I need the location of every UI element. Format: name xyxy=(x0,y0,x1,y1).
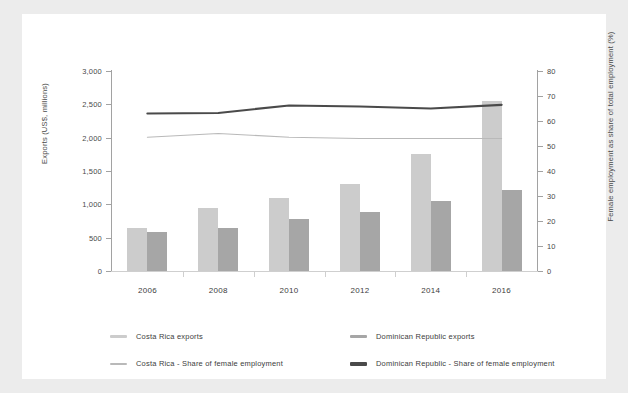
right-axis-tick xyxy=(538,96,543,97)
legend-item[interactable]: Dominican Republic - Share of female emp… xyxy=(350,359,590,368)
right-axis-tick-label: 60 xyxy=(547,117,556,126)
left-axis-tick-label: 1,000 xyxy=(62,200,102,209)
y-axis-title-right: Female employment as share of total empl… xyxy=(606,19,615,234)
right-axis-tick-label: 10 xyxy=(547,242,556,251)
legend-label: Dominican Republic - Share of female emp… xyxy=(376,359,555,368)
x-axis-label: 2006 xyxy=(112,286,183,295)
x-axis-label: 2010 xyxy=(254,286,325,295)
left-axis-tick-label: 2,000 xyxy=(62,134,102,143)
line-costa-rica-female-employment xyxy=(147,134,501,139)
legend-label: Costa Rica exports xyxy=(136,332,203,341)
legend-swatch-icon xyxy=(110,335,127,338)
left-axis-tick-label: 3,000 xyxy=(62,67,102,76)
left-axis-tick xyxy=(106,171,111,172)
left-axis-tick xyxy=(106,138,111,139)
right-axis-tick xyxy=(538,271,543,272)
right-axis-tick-label: 80 xyxy=(547,67,556,76)
page-background: Exports (US$, millions) Female employmen… xyxy=(0,0,628,393)
right-axis-tick-label: 40 xyxy=(547,167,556,176)
x-axis-label: 2016 xyxy=(466,286,537,295)
right-axis-tick-label: 20 xyxy=(547,217,556,226)
x-axis-tick xyxy=(395,272,396,277)
x-axis-tick xyxy=(183,272,184,277)
x-axis-label: 2008 xyxy=(183,286,254,295)
x-axis-tick xyxy=(325,272,326,277)
right-axis-tick-label: 70 xyxy=(547,92,556,101)
left-axis-tick xyxy=(106,271,111,272)
line-dominican-republic-female-employment xyxy=(147,105,501,114)
right-axis-tick xyxy=(538,171,543,172)
right-axis-tick-label: 30 xyxy=(547,192,556,201)
right-axis-tick xyxy=(538,221,543,222)
legend-item[interactable]: Costa Rica exports xyxy=(110,332,350,341)
left-axis-tick xyxy=(106,104,111,105)
x-axis-tick xyxy=(466,272,467,277)
right-axis-tick xyxy=(538,146,543,147)
x-axis-tick xyxy=(254,272,255,277)
x-axis-label: 2014 xyxy=(395,286,466,295)
right-axis-tick xyxy=(538,121,543,122)
right-axis-tick-label: 0 xyxy=(547,267,551,276)
chart-card: Exports (US$, millions) Female employmen… xyxy=(22,14,606,379)
left-axis-tick-label: 0 xyxy=(62,267,102,276)
left-axis-tick xyxy=(106,238,111,239)
legend-swatch-icon xyxy=(110,363,127,365)
right-axis-tick xyxy=(538,71,543,72)
legend-label: Dominican Republic exports xyxy=(376,332,475,341)
chart-legend: Costa Rica exportsDominican Republic exp… xyxy=(110,332,580,368)
legend-swatch-icon xyxy=(350,362,367,366)
legend-item[interactable]: Dominican Republic exports xyxy=(350,332,590,341)
left-axis-tick xyxy=(106,204,111,205)
x-axis-label: 2012 xyxy=(325,286,396,295)
line-series-layer xyxy=(112,71,537,271)
legend-swatch-icon xyxy=(350,335,367,338)
right-axis-tick xyxy=(538,246,543,247)
right-axis-tick-label: 50 xyxy=(547,142,556,151)
left-axis-tick-label: 1,500 xyxy=(62,167,102,176)
legend-label: Costa Rica - Share of female employment xyxy=(136,359,283,368)
right-axis-tick xyxy=(538,196,543,197)
legend-item[interactable]: Costa Rica - Share of female employment xyxy=(110,359,350,368)
left-axis-tick-label: 2,500 xyxy=(62,100,102,109)
y-axis-title-left: Exports (US$, millions) xyxy=(40,59,49,189)
left-axis-tick xyxy=(106,71,111,72)
left-axis-tick-label: 500 xyxy=(62,234,102,243)
